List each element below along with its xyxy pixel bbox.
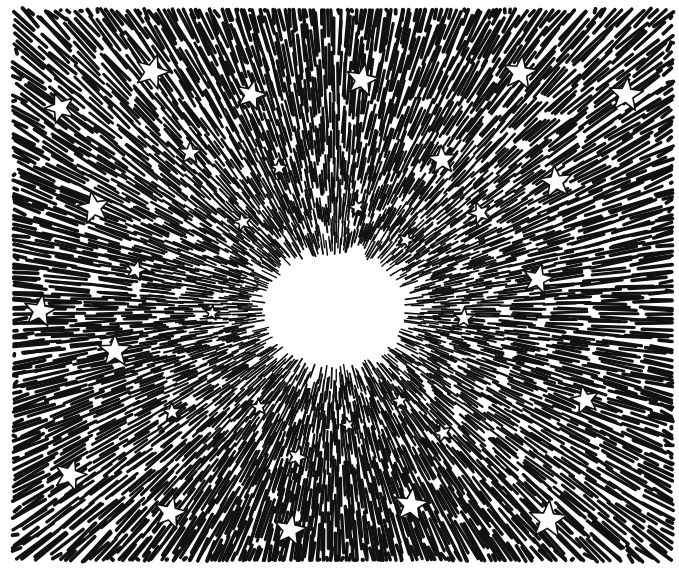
ray-stroke	[547, 323, 583, 324]
ray-stroke	[671, 182, 672, 183]
ray-stroke	[13, 436, 15, 437]
ray-stroke	[14, 372, 25, 374]
ray-stroke	[238, 305, 258, 306]
ray-stroke	[435, 10, 437, 19]
ray-stroke	[122, 315, 151, 316]
ray-stroke	[342, 515, 344, 553]
ray-stroke	[333, 394, 334, 422]
ray-stroke	[544, 303, 576, 304]
ray-stroke	[166, 559, 167, 560]
ray-stroke	[405, 313, 424, 314]
ray-stroke	[465, 296, 482, 297]
ray-stroke	[668, 137, 671, 140]
ray-stroke	[197, 290, 213, 292]
ray-stroke	[320, 61, 322, 96]
ray-stroke	[342, 558, 344, 560]
ray-stroke	[529, 11, 534, 16]
ray-stroke	[668, 63, 672, 65]
ray-stroke	[310, 365, 314, 378]
ray-stroke	[322, 380, 324, 399]
ray-stroke	[310, 536, 312, 560]
ray-stroke	[111, 323, 142, 324]
ray-stroke	[249, 313, 262, 314]
ray-stroke	[341, 478, 342, 505]
ray-stroke	[103, 297, 130, 298]
ray-stroke	[15, 210, 25, 215]
ray-stroke	[182, 295, 207, 297]
ray-stroke	[632, 277, 666, 280]
ray-stroke	[24, 328, 63, 330]
ray-stroke	[85, 305, 118, 307]
ray-stroke	[330, 240, 331, 251]
ray-stroke	[664, 68, 672, 75]
ray-stroke	[418, 302, 434, 304]
ray-stroke	[340, 52, 342, 84]
ray-stroke	[331, 403, 332, 420]
ray-stroke	[482, 298, 513, 301]
ray-stroke	[229, 311, 247, 312]
ray-stroke	[341, 221, 343, 244]
ray-stroke	[406, 297, 423, 300]
ray-stroke	[351, 10, 352, 11]
ray-stroke	[386, 10, 387, 11]
ray-stroke	[111, 559, 113, 561]
ray-stroke	[214, 11, 219, 17]
ray-stroke	[340, 10, 341, 44]
ray-stroke	[14, 236, 29, 237]
ray-stroke	[326, 47, 327, 87]
ray-stroke	[329, 174, 331, 201]
ray-stroke	[656, 219, 672, 221]
ray-stroke	[322, 513, 323, 550]
ray-stroke	[118, 125, 146, 146]
ray-stroke	[388, 553, 390, 560]
ray-stroke	[337, 425, 338, 452]
ray-stroke	[650, 291, 672, 294]
ray-stroke	[671, 42, 673, 43]
ray-stroke	[331, 522, 332, 555]
ray-stroke	[240, 326, 254, 329]
ray-stroke	[15, 382, 17, 385]
ray-stroke	[390, 268, 402, 275]
ray-stroke	[180, 298, 198, 299]
ray-stroke	[636, 323, 672, 324]
ray-stroke	[36, 334, 72, 335]
ray-stroke	[540, 329, 565, 332]
ray-stroke	[87, 10, 91, 16]
ray-stroke	[328, 10, 329, 36]
ray-stroke	[589, 321, 626, 322]
ray-stroke	[671, 457, 672, 458]
ray-stroke	[13, 535, 18, 536]
ray-stroke	[190, 554, 193, 560]
ray-stroke	[592, 326, 634, 327]
ray-stroke	[629, 286, 672, 288]
ray-stroke	[14, 188, 18, 190]
ray-stroke	[14, 244, 22, 245]
ray-stroke	[668, 452, 672, 455]
ray-stroke	[455, 552, 460, 560]
ray-stroke	[588, 329, 624, 332]
ray-stroke	[355, 559, 356, 560]
ray-stroke	[97, 313, 132, 314]
ray-stroke	[660, 281, 672, 284]
ray-stroke	[238, 315, 255, 316]
ray-stroke	[634, 301, 672, 302]
ray-stroke	[269, 546, 271, 560]
ray-stroke	[99, 285, 126, 288]
ray-stroke	[325, 486, 326, 522]
ray-stroke	[335, 533, 336, 560]
ray-stroke	[631, 319, 672, 320]
ray-stroke	[667, 521, 672, 524]
ray-stroke	[305, 10, 307, 17]
ray-stroke	[642, 329, 672, 330]
ray-stroke	[464, 9, 465, 11]
starburst-illustration	[0, 0, 679, 579]
ray-stroke	[493, 555, 496, 560]
ray-stroke	[657, 245, 672, 246]
ray-stroke	[232, 554, 235, 560]
ray-stroke	[323, 234, 325, 248]
ray-stroke	[340, 198, 341, 218]
ray-stroke	[328, 196, 329, 218]
ray-stroke	[323, 108, 325, 141]
ray-stroke	[299, 10, 300, 20]
ray-stroke	[515, 299, 545, 301]
